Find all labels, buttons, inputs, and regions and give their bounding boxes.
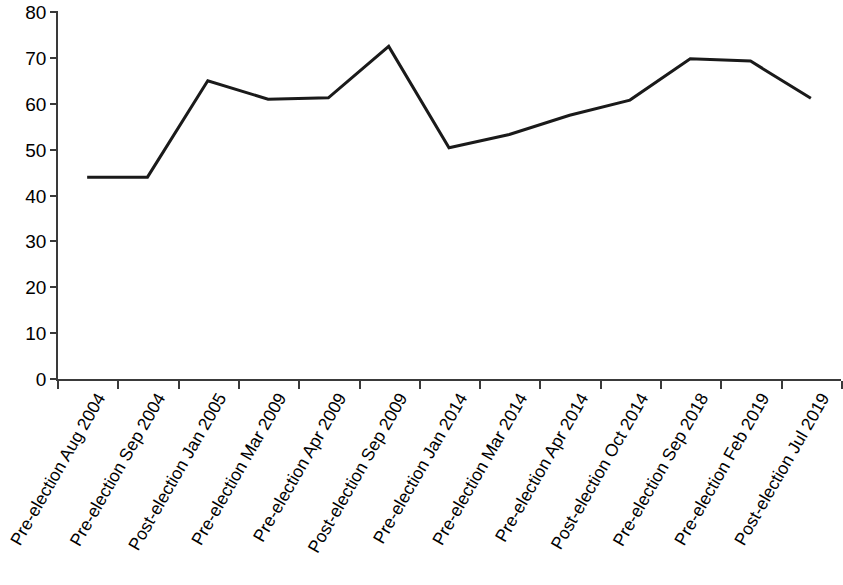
y-tick-mark bbox=[50, 240, 57, 242]
plot-area bbox=[0, 0, 843, 390]
y-tick-mark bbox=[50, 332, 57, 334]
x-tick-mark bbox=[781, 381, 783, 389]
y-tick-mark bbox=[50, 286, 57, 288]
x-tick-mark bbox=[117, 381, 119, 389]
data-series-line bbox=[0, 0, 843, 390]
x-tick-mark bbox=[359, 381, 361, 389]
x-tick-mark bbox=[600, 381, 602, 389]
x-tick-mark bbox=[479, 381, 481, 389]
y-tick-mark bbox=[50, 149, 57, 151]
y-tick-mark bbox=[50, 103, 57, 105]
y-tick-mark bbox=[50, 57, 57, 59]
y-tick-mark bbox=[50, 378, 57, 380]
y-tick-mark bbox=[50, 11, 57, 13]
line-chart: 01020304050607080 Pre-election Aug 2004P… bbox=[0, 0, 843, 585]
x-tick-mark bbox=[57, 381, 59, 389]
x-tick-mark bbox=[539, 381, 541, 389]
x-tick-mark bbox=[660, 381, 662, 389]
y-tick-mark bbox=[50, 195, 57, 197]
x-tick-label: Pre-election Aug 2004 bbox=[0, 390, 109, 585]
x-tick-mark bbox=[419, 381, 421, 389]
x-tick-mark bbox=[178, 381, 180, 389]
x-axis-labels: Pre-election Aug 2004Pre-election Sep 20… bbox=[0, 390, 843, 585]
x-tick-mark bbox=[238, 381, 240, 389]
x-tick-mark bbox=[720, 381, 722, 389]
x-tick-mark bbox=[298, 381, 300, 389]
